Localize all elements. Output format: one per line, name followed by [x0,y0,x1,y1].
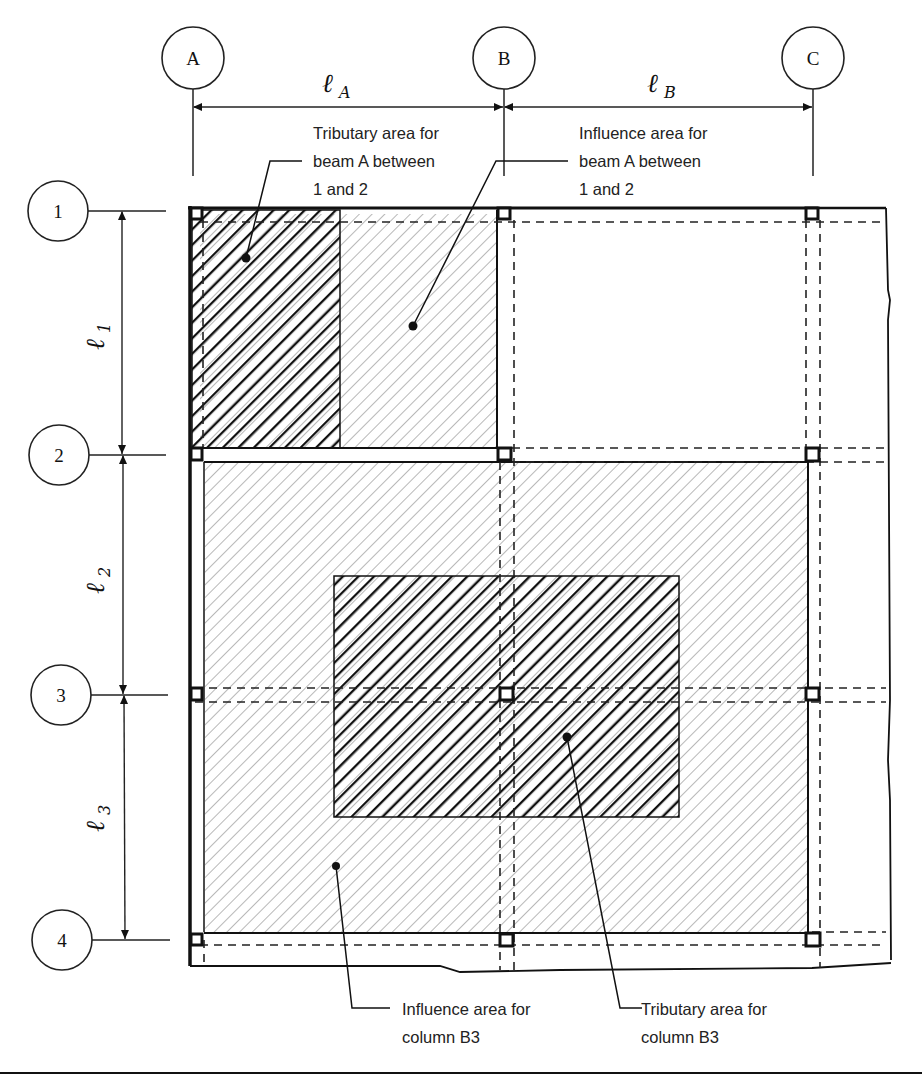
gridline-2-label: 2 [54,445,64,466]
gridline-4-label: 4 [57,930,67,951]
dimension-label-lb: ℓ B [647,68,676,102]
gridline-c-label: C [807,48,820,69]
svg-text:2: 2 [95,567,114,578]
svg-text:ℓ: ℓ [322,68,333,98]
column-b3 [500,688,513,700]
column-b2 [498,448,511,460]
svg-text:1: 1 [95,323,114,333]
svg-text:column B3: column B3 [641,1028,719,1046]
gridline-a-label: A [186,48,200,69]
dimension-label-l3: ℓ 3 [80,805,114,832]
structural-plan-diagram: A B C 1 2 3 4 ℓ A [0,0,922,1077]
gridline-3-label: 3 [56,685,66,706]
svg-text:column B3: column B3 [402,1028,480,1046]
dimension-label-l2: ℓ 2 [80,567,114,594]
column-b1 [498,208,510,219]
column-c1 [806,208,818,219]
annotation-tributary-column-b3: Tributary area for column B3 [641,1000,767,1046]
column-b4 [500,934,513,946]
dimension-label-la: ℓ A [322,68,351,102]
svg-text:beam A between: beam A between [579,152,701,170]
svg-text:1 and 2: 1 and 2 [579,180,634,198]
svg-text:Influence area for: Influence area for [402,1000,531,1018]
svg-text:3: 3 [95,805,114,815]
column-a1 [191,208,202,219]
gridline-b-label: B [498,48,511,69]
column-c3 [806,688,819,700]
column-a3 [191,688,202,700]
svg-text:beam A between: beam A between [313,152,435,170]
column-c4 [806,933,820,946]
svg-text:ℓ: ℓ [80,821,110,832]
svg-text:1 and 2: 1 and 2 [313,180,368,198]
svg-text:ℓ: ℓ [80,583,110,594]
svg-text:B: B [663,83,676,102]
svg-text:Influence area for: Influence area for [579,124,708,142]
column-a4 [191,934,202,945]
annotation-influence-beam-a: Influence area for beam A between 1 and … [579,124,708,198]
dimension-label-l1: ℓ 1 [80,323,114,350]
tributary-area-beam-a [192,210,340,448]
gridline-1-label: 1 [53,201,63,222]
svg-text:A: A [337,83,351,102]
column-a2 [191,448,202,460]
svg-text:ℓ: ℓ [647,68,658,98]
annotation-influence-column-b3: Influence area for column B3 [402,1000,531,1046]
annotation-tributary-beam-a: Tributary area for beam A between 1 and … [313,124,439,198]
svg-text:Tributary area for: Tributary area for [641,1000,767,1018]
svg-text:Tributary area for: Tributary area for [313,124,439,142]
column-c2 [806,448,819,461]
grid-bubbles-top: A B C [162,27,844,176]
svg-text:ℓ: ℓ [80,339,110,350]
